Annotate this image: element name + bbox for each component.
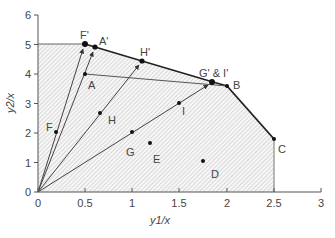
label-b: B bbox=[233, 79, 240, 91]
x-tick-label: 3 bbox=[318, 197, 324, 209]
point-f-prime bbox=[82, 41, 88, 47]
point-b bbox=[225, 84, 229, 88]
label-gi-prime: G' & I' bbox=[199, 67, 228, 79]
label-i: I bbox=[182, 105, 185, 117]
y-tick-label: 5 bbox=[25, 39, 31, 51]
y-ticks bbox=[34, 15, 38, 192]
label-a-prime: A' bbox=[99, 35, 108, 47]
label-e: E bbox=[153, 153, 160, 165]
point-h bbox=[98, 111, 102, 115]
point-i bbox=[177, 101, 181, 105]
x-tick-labels: 0 0.5 1 1.5 2 2.5 3 bbox=[35, 197, 324, 209]
y-tick-label: 2 bbox=[25, 127, 31, 139]
label-g: G bbox=[126, 146, 135, 158]
y-tick-labels: 0 1 2 3 4 5 6 bbox=[25, 9, 31, 198]
y-axis-label: y2/x bbox=[4, 92, 16, 114]
y-tick-label: 4 bbox=[25, 68, 31, 80]
y-tick-label: 6 bbox=[25, 9, 31, 21]
point-c bbox=[272, 137, 276, 141]
label-h-prime: H' bbox=[140, 46, 150, 58]
label-d: D bbox=[211, 168, 219, 180]
x-tick-label: 2 bbox=[224, 197, 230, 209]
y-tick-label: 1 bbox=[25, 157, 31, 169]
point-g bbox=[130, 130, 134, 134]
label-f: F bbox=[46, 121, 53, 133]
x-tick-label: 0.5 bbox=[77, 197, 92, 209]
label-a: A bbox=[88, 79, 96, 91]
point-d bbox=[201, 159, 205, 163]
x-tick-label: 2.5 bbox=[266, 197, 281, 209]
x-tick-label: 1.5 bbox=[171, 197, 186, 209]
point-gi-prime bbox=[209, 79, 215, 85]
label-h: H bbox=[108, 114, 116, 126]
y-tick-label: 0 bbox=[25, 186, 31, 198]
efficiency-frontier-chart: 0 0.5 1 1.5 2 2.5 3 0 1 2 3 4 5 6 y1/x y… bbox=[0, 0, 335, 238]
point-e bbox=[148, 141, 152, 145]
point-f bbox=[54, 130, 58, 134]
x-axis-label: y1/x bbox=[149, 214, 171, 226]
label-c: C bbox=[278, 143, 286, 155]
label-f-prime: F' bbox=[80, 29, 89, 41]
point-a bbox=[83, 72, 87, 76]
x-tick-label: 1 bbox=[129, 197, 135, 209]
y-tick-label: 3 bbox=[25, 98, 31, 110]
x-tick-label: 0 bbox=[35, 197, 41, 209]
point-h-prime bbox=[139, 58, 144, 63]
point-a-prime bbox=[92, 44, 97, 49]
